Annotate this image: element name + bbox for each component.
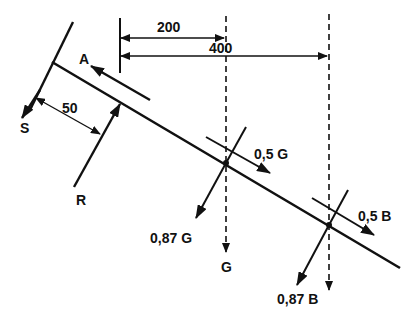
label-087B: 0,87 B [277,291,318,307]
label-50: 50 [62,100,78,116]
label-05G: 0,5 G [254,146,288,162]
force-arrow-S [22,90,40,118]
label-A: A [79,51,89,67]
force-arrow-R [74,104,120,187]
force-diagram: 200 400 50 A S R 0,5 G 0,87 G G 0,5 B 0,… [0,0,416,324]
force-arrow-087G [196,163,226,218]
label-05B: 0,5 B [358,208,391,224]
force-arrow-087B [297,225,329,285]
label-087G: 0,87 G [150,230,192,246]
perpendicular-line-B [329,190,348,225]
label-R: R [76,192,86,208]
label-400: 400 [209,40,233,56]
label-200: 200 [157,19,181,35]
label-G: G [221,259,232,275]
label-S: S [20,120,29,136]
